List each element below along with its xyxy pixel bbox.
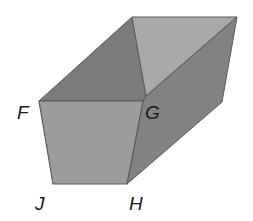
vertex-label-g: G [145, 102, 160, 123]
vertex-label-j: J [34, 193, 45, 214]
vertex-label-f: F [17, 102, 30, 123]
prism-diagram: F G J H [0, 0, 253, 221]
inner-left-face [39, 17, 146, 101]
vertex-label-h: H [129, 193, 143, 214]
front-face-fghj [39, 101, 143, 184]
